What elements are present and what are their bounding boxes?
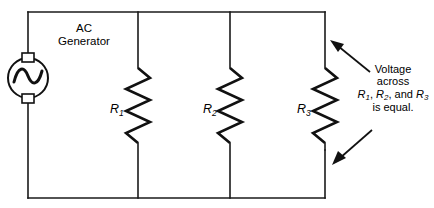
- voltage-annotation-line2: across: [352, 75, 434, 87]
- branch-r3: [313, 68, 337, 150]
- lower-arrow-head-icon: [332, 151, 346, 165]
- resistor-label-r3-base: R: [297, 102, 306, 116]
- voltage-annotation-r1-base: R: [358, 88, 366, 100]
- r2-zigzag: [218, 68, 242, 143]
- r1-zigzag: [126, 68, 150, 143]
- ac-generator-symbol: [8, 53, 48, 103]
- resistor-label-r2-subscript: 2: [212, 108, 217, 118]
- voltage-annotation-r2-base: R: [376, 88, 384, 100]
- resistor-label-r3: R3: [297, 102, 311, 116]
- r3-zigzag: [313, 68, 337, 143]
- ac-generator-label: AC Generator: [47, 22, 121, 48]
- lower-leader-line: [340, 130, 372, 158]
- generator-bottom-terminal: [22, 94, 34, 103]
- voltage-annotation-r2-subscript: 2: [384, 93, 388, 102]
- voltage-annotation-r3-subscript: 3: [424, 93, 428, 102]
- callout-lower: [332, 130, 372, 165]
- branch-r2: [218, 12, 242, 198]
- ac-generator-label-line1: AC: [47, 22, 121, 35]
- resistor-label-r1: R1: [110, 102, 124, 116]
- ac-generator-label-line2: Generator: [47, 35, 121, 48]
- voltage-annotation-r2: R2: [376, 88, 388, 100]
- resistor-label-r1-base: R: [110, 102, 119, 116]
- voltage-annotation-line4: is equal.: [352, 101, 434, 113]
- resistor-label-r3-subscript: 3: [306, 108, 311, 118]
- voltage-annotation: Voltage across R1, R2, and R3 is equal.: [352, 63, 434, 113]
- voltage-annotation-separator-2: , and: [389, 88, 417, 100]
- voltage-annotation-r1-subscript: 1: [366, 93, 370, 102]
- resistor-label-r1-subscript: 1: [119, 108, 124, 118]
- voltage-annotation-line3: R1, R2, and R3: [352, 88, 434, 101]
- voltage-annotation-r1: R1: [358, 88, 370, 100]
- voltage-annotation-line1: Voltage: [352, 63, 434, 75]
- voltage-annotation-r3-base: R: [416, 88, 424, 100]
- resistor-label-r2-base: R: [203, 102, 212, 116]
- circuit-diagram: AC Generator R1 R2 R3 Voltage across R1,…: [0, 0, 434, 208]
- branch-r1: [126, 12, 150, 198]
- generator-top-terminal: [22, 53, 34, 62]
- resistor-label-r2: R2: [203, 102, 217, 116]
- voltage-annotation-r3: R3: [416, 88, 428, 100]
